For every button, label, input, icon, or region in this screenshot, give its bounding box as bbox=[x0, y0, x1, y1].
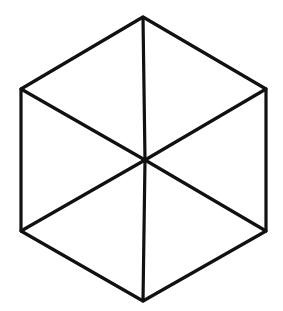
center-spokes bbox=[21, 17, 266, 301]
diagram-canvas bbox=[0, 0, 283, 311]
spoke-line bbox=[143, 17, 145, 160]
spoke-line bbox=[145, 160, 266, 231]
spoke-line bbox=[143, 160, 145, 301]
spoke-line bbox=[145, 89, 266, 160]
spoke-line bbox=[21, 160, 145, 231]
hexagon-diagram bbox=[0, 0, 283, 311]
spoke-line bbox=[21, 89, 145, 160]
